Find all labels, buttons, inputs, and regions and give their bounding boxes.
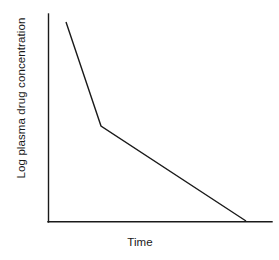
drug-concentration-curve	[66, 22, 246, 221]
chart-canvas	[0, 0, 279, 260]
x-axis-label: Time	[127, 237, 153, 249]
chart-figure: Log plasma drug concentration Time	[0, 0, 279, 260]
y-axis-label: Log plasma drug concentration	[16, 18, 28, 179]
